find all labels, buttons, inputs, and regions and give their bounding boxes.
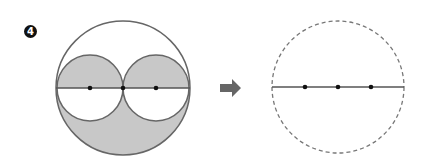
left-figure xyxy=(56,21,190,155)
center-dot xyxy=(303,85,308,90)
center-dot xyxy=(121,86,126,91)
right-figure xyxy=(272,21,404,153)
diagram xyxy=(0,0,430,167)
center-dot xyxy=(336,85,341,90)
center-dot xyxy=(88,86,93,91)
left-upper-shaded-semicircle xyxy=(57,55,123,88)
center-dot xyxy=(154,86,159,91)
arrow-right-icon xyxy=(220,79,241,97)
right-upper-shaded-semicircle xyxy=(123,55,189,88)
center-dot xyxy=(369,85,374,90)
